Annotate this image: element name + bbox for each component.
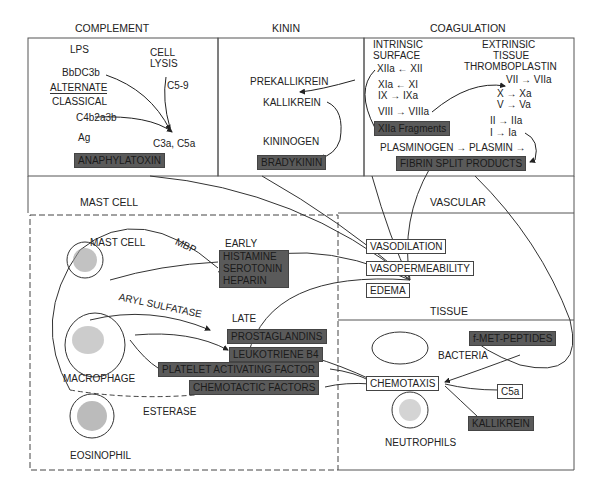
neutrophils-label: NEUTROPHILS (385, 437, 456, 448)
macrophage-label: MACROPHAGE (63, 373, 135, 384)
anaphylatoxin-box: ANAPHYLATOXIN (74, 153, 165, 168)
leukotriene-box: LEUKOTRIENE B4 (229, 347, 323, 362)
tissue-factor-label: TISSUE (493, 50, 529, 61)
vasodilation-box: VASODILATION (366, 239, 446, 254)
bbdc3b-label: BbDC3b (62, 67, 100, 78)
prostaglandins-box: PROSTAGLANDINS (227, 329, 327, 344)
i-ia-label: I → Ia (490, 127, 517, 138)
kallikrein-label: KALLIKREIN (263, 97, 321, 108)
c59-label: C5-9 (167, 80, 189, 91)
surface-label: SURFACE (373, 50, 420, 61)
ii-iia-label: II → IIa (490, 115, 522, 126)
vasopermeability-box: VASOPERMEABILITY (366, 261, 474, 276)
ag-label: Ag (78, 132, 90, 143)
alternate-label: ALTERNATE (50, 82, 107, 94)
extrinsic-label: EXTRINSIC (482, 39, 535, 50)
section-vascular: VASCULAR (430, 196, 486, 208)
histamine-label: HISTAMINE (223, 251, 285, 263)
c4b2a3b-label: C4b2a3b (76, 112, 117, 123)
section-mast-cell: MAST CELL (80, 196, 138, 208)
classical-label: CLASSICAL (52, 96, 107, 107)
kininogen-label: KININOGEN (263, 136, 319, 147)
heparin-label: HEPARIN (223, 275, 285, 287)
prekallikrein-label: PREKALLIKREIN (250, 76, 328, 87)
thromboplastin-label: THROMBOPLASTIN (464, 61, 557, 72)
c5a-box: C5a (497, 384, 523, 399)
plasminogen-label: PLASMINOGEN → PLASMIN → (380, 142, 526, 153)
c3a-c5a-label: C3a, C5a (153, 138, 195, 149)
esterase-label: ESTERASE (143, 406, 196, 417)
chemotactic-factors-box: CHEMOTACTIC FACTORS (189, 380, 319, 395)
section-tissue: TISSUE (430, 305, 468, 317)
xia-xi-label: XIa ← XI (378, 79, 418, 90)
fmet-peptides-box: f-MET-PEPTIDES (469, 331, 556, 346)
lysis-label: LYSIS (150, 58, 178, 69)
paf-box: PLATELET ACTIVATING FACTOR (158, 362, 319, 377)
section-complement: COMPLEMENT (75, 22, 149, 34)
mast-cell-label: MAST CELL (90, 237, 145, 248)
eosinophil-label: EOSINOPHIL (70, 450, 131, 461)
vii-viia-label: VII → VIIa (506, 74, 552, 85)
early-mediators-box: HISTAMINE SEROTONIN HEPARIN (219, 250, 289, 288)
x-xa-label: X → Xa (497, 88, 531, 99)
xiia-fragments-box: XIIa Fragments (374, 121, 450, 136)
cell-label: CELL (150, 47, 175, 58)
lps-label: LPS (70, 44, 89, 55)
kallikrein-tissue-box: KALLIKREIN (468, 416, 534, 431)
ix-ixa-label: IX → IXa (378, 90, 418, 101)
edema-box: EDEMA (366, 283, 410, 298)
bacteria-label: BACTERIA (438, 350, 488, 361)
early-label: EARLY (225, 238, 257, 249)
v-va-label: V → Va (497, 99, 531, 110)
section-coagulation: COAGULATION (430, 22, 506, 34)
chemotaxis-box: CHEMOTAXIS (366, 376, 439, 391)
xiia-xii-label: XIIa ← XII (377, 63, 423, 74)
serotonin-label: SEROTONIN (223, 263, 285, 275)
viii-viiia-label: VIII → VIIIa (378, 106, 429, 117)
late-label: LATE (232, 313, 256, 324)
section-kinin: KININ (272, 22, 300, 34)
bradykinin-box: BRADYKININ (257, 155, 326, 170)
intrinsic-label: INTRINSIC (373, 39, 423, 50)
fibrin-split-box: FIBRIN SPLIT PRODUCTS (396, 156, 526, 171)
